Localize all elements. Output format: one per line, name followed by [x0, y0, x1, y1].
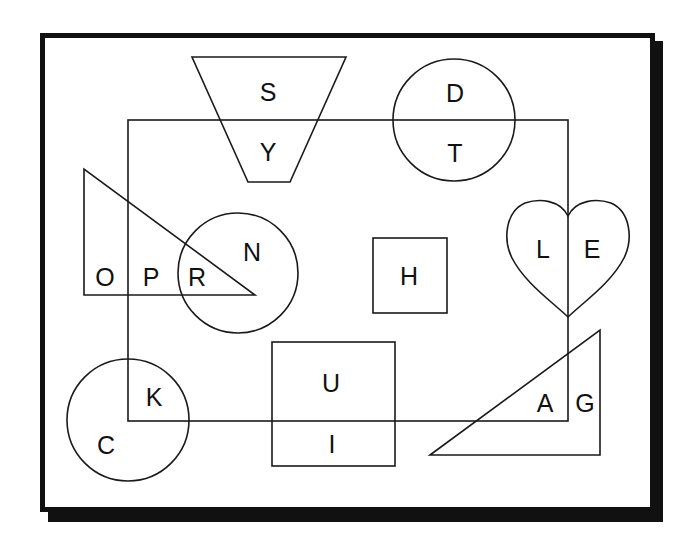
label-y: Y — [260, 138, 277, 166]
label-u: U — [322, 369, 340, 397]
frame-border — [43, 36, 653, 510]
label-i: I — [329, 430, 336, 458]
label-o: O — [95, 263, 114, 291]
label-g: G — [575, 389, 594, 417]
label-n: N — [243, 238, 261, 266]
label-p: P — [143, 263, 160, 291]
label-h: H — [400, 262, 418, 290]
label-l: L — [536, 235, 550, 263]
label-t: T — [447, 139, 462, 167]
label-k: K — [146, 383, 163, 411]
label-s: S — [260, 78, 277, 106]
label-d: D — [446, 79, 464, 107]
label-r: R — [188, 263, 206, 291]
label-c: C — [97, 431, 115, 459]
label-a: A — [537, 389, 554, 417]
label-e: E — [584, 235, 601, 263]
venn-puzzle-diagram: S Y D T O P R N H L E K C U I A G — [0, 0, 699, 547]
